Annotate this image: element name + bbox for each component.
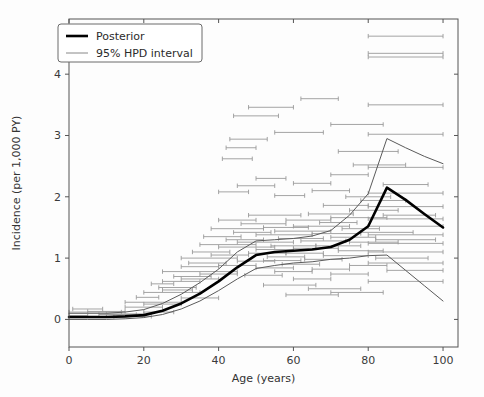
observation-interval [249, 105, 294, 109]
legend-label: Posterior [96, 30, 145, 43]
observation-interval [293, 277, 330, 281]
observation-interval [211, 226, 263, 230]
observation-interval [219, 218, 256, 222]
y-axis-label: Incidence (per 1,000 PY) [10, 116, 23, 251]
observation-interval [237, 184, 274, 188]
observation-interval [376, 238, 436, 242]
observation-interval [256, 176, 286, 180]
observation-interval [331, 173, 368, 177]
observation-interval [312, 188, 349, 192]
y-tick-label: 3 [54, 129, 61, 142]
observation-interval [323, 203, 368, 207]
observation-interval [219, 190, 249, 194]
figure-canvas: 02040608010001234 Posterior95% HPD inter… [0, 0, 484, 397]
observation-interval [376, 256, 428, 260]
observation-interval [353, 163, 405, 167]
observation-interval [368, 103, 443, 107]
y-tick-label: 1 [54, 252, 61, 265]
observation-interval [368, 132, 443, 136]
x-tick-label: 20 [137, 354, 151, 367]
x-tick-label: 0 [66, 354, 73, 367]
observation-interval [234, 230, 271, 234]
observation-interval [189, 261, 226, 265]
observation-interval [368, 191, 443, 195]
observation-interval [331, 122, 383, 126]
observation-interval [275, 130, 324, 134]
observation-interval [249, 213, 301, 217]
observation-interval [181, 264, 218, 268]
observation-interval [234, 114, 279, 118]
observation-interval [136, 295, 158, 299]
observation-interval [256, 233, 312, 237]
observation-interval [293, 181, 330, 185]
observation-interval [222, 157, 252, 161]
observation-interval [230, 137, 267, 141]
x-tick-label: 80 [361, 354, 375, 367]
observation-interval [331, 272, 368, 276]
incidence-by-age-chart: 02040608010001234 Posterior95% HPD inter… [0, 0, 484, 397]
observation-interval [387, 268, 443, 272]
observation-interval [312, 267, 349, 271]
observation-interval [301, 97, 338, 101]
observation-interval [323, 253, 368, 257]
legend-label: 95% HPD interval [96, 47, 193, 60]
observation-interval [159, 285, 196, 289]
chart-legend: Posterior95% HPD interval [58, 24, 202, 62]
y-tick-label: 0 [54, 313, 61, 326]
observation-interval [368, 55, 443, 59]
observation-interval [286, 218, 331, 222]
y-tick-label: 4 [54, 68, 61, 81]
x-tick-label: 100 [433, 354, 454, 367]
x-tick-label: 60 [286, 354, 300, 367]
observation-interval [383, 182, 428, 186]
y-tick-label: 2 [54, 191, 61, 204]
observation-interval-layer [69, 34, 443, 319]
observation-interval [361, 198, 406, 202]
observation-interval [275, 193, 305, 197]
axes-frame [69, 19, 458, 347]
observation-interval [226, 146, 256, 150]
observation-interval [368, 51, 443, 55]
x-tick-label: 40 [212, 354, 226, 367]
observation-interval [368, 279, 443, 283]
observation-interval [338, 149, 398, 153]
observation-interval [368, 34, 443, 38]
observation-interval [368, 261, 443, 265]
observation-interval [144, 290, 200, 294]
x-axis-label: Age (years) [232, 372, 296, 385]
observation-interval [219, 245, 275, 249]
observation-interval [368, 233, 443, 237]
observation-interval [204, 234, 241, 238]
observation-interval [245, 273, 282, 277]
